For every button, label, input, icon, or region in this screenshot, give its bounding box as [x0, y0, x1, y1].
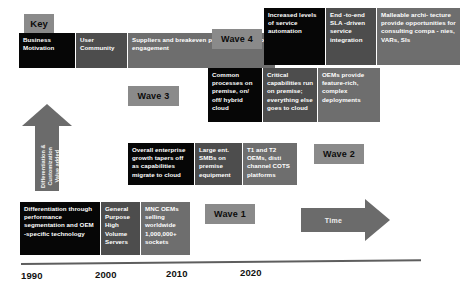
wave-1-label: Wave 1 [205, 204, 255, 224]
vertical-axis-line3: Value added [54, 150, 60, 183]
wave-3-box-3: OEMs provide feature-rich, complex deplo… [318, 68, 380, 122]
legend-item-business-motivation: Business Motivation [19, 33, 75, 68]
wave-4-box-1: Increased levels of service automation [264, 8, 325, 65]
wave-3-box-2: Critical capabilities run on premise; ev… [263, 68, 317, 122]
up-arrow-icon [22, 104, 72, 126]
right-arrow-icon [365, 199, 390, 241]
wave-4-box-3: Malleable archi- tecture provide opportu… [377, 8, 460, 65]
wave-2-box-3: T1 and T2 OEMs, disti channel COTS platf… [243, 143, 297, 185]
wave-3-box-1: Common processes on premise, on/ off/ hy… [208, 68, 262, 122]
vertical-axis-line2: Customization [47, 147, 53, 186]
legend-item-user-community: User Community [76, 33, 127, 68]
wave-4-label: Wave 4 [212, 29, 262, 49]
time-axis-label: Time [325, 217, 342, 224]
wave-4-box-2: End -to-end SLA -driven service integrat… [326, 8, 376, 65]
vertical-axis-line1: Differentiation & [40, 144, 46, 188]
wave-1-box-2: General Purpose High Volume Servers [101, 202, 140, 255]
wave-2-box-1: Overall enterprise growth tapers off as … [128, 143, 194, 185]
axis-tick-1990: 1990 [21, 270, 43, 281]
wave-2-label: Wave 2 [314, 144, 364, 164]
wave-3-label: Wave 3 [128, 86, 179, 106]
wave-2-box-2: Large ent. SMBs on premise equipment [195, 143, 242, 185]
axis-tick-2010: 2010 [166, 268, 188, 279]
wave-1-box-3: MNC OEMs selling worldwide 1,000,000+ so… [141, 202, 190, 255]
key-label: Key [24, 14, 54, 33]
diagram-canvas: Key Business Motivation User Community S… [0, 0, 467, 299]
vertical-axis-label: Differentiation & Customization Value ad… [40, 144, 61, 188]
wave-1-box-1: Differentiation through performance segm… [20, 202, 100, 255]
axis-tick-2000: 2000 [95, 269, 117, 280]
timeline-axis [21, 259, 421, 264]
time-arrow-shaft: Time [301, 208, 366, 232]
axis-tick-2020: 2020 [240, 267, 262, 278]
